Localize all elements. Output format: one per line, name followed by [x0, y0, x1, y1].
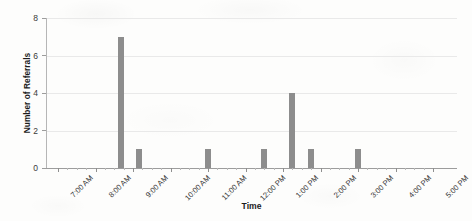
y-axis-title: Number of Referrals — [20, 18, 34, 168]
x-tick-label-text: 8:00 AM — [106, 173, 132, 199]
x-tick-minor-mark — [227, 168, 228, 170]
x-tick-label: 4:00 PM — [408, 172, 434, 198]
y-tick-mark — [42, 55, 46, 56]
bar — [261, 149, 267, 168]
x-tick-label: 8:00 AM — [108, 172, 134, 198]
x-tick-minor-mark — [292, 168, 293, 170]
x-tick-label-text: 10:00 AM — [182, 173, 211, 202]
gridline — [46, 56, 457, 57]
gridline — [46, 93, 457, 94]
x-tick-minor-mark — [311, 168, 312, 170]
bar — [205, 149, 211, 168]
gridline — [46, 18, 457, 19]
x-tick-label-text: 4:00 PM — [406, 173, 432, 199]
x-tick-label-text: 9:00 AM — [144, 173, 170, 199]
x-tick-mark — [171, 168, 172, 172]
bar — [289, 93, 295, 168]
x-tick-label-text: 11:00 AM — [220, 173, 249, 202]
x-tick-label: 5:00 PM — [445, 172, 471, 198]
x-tick-minor-mark — [264, 168, 265, 170]
y-tick-mark — [42, 93, 46, 94]
x-tick-minor-mark — [405, 168, 406, 170]
x-tick-minor-mark — [274, 168, 275, 170]
gridline — [46, 131, 457, 132]
x-axis-title: Time — [46, 201, 457, 211]
x-tick-minor-mark — [67, 168, 68, 170]
plot-area — [46, 18, 457, 168]
x-tick-minor-mark — [349, 168, 350, 170]
x-tick-minor-mark — [302, 168, 303, 170]
bar — [355, 149, 361, 168]
x-tick-minor-mark — [386, 168, 387, 170]
x-tick-label: 9:00 AM — [145, 172, 171, 198]
x-tick-minor-mark — [330, 168, 331, 170]
x-tick-minor-mark — [236, 168, 237, 170]
x-tick-mark — [208, 168, 209, 172]
x-tick-mark — [246, 168, 247, 172]
x-tick-mark — [358, 168, 359, 172]
x-tick-mark — [396, 168, 397, 172]
x-tick-label-text: 7:00 AM — [69, 173, 95, 199]
x-tick-mark — [58, 168, 59, 172]
x-tick-mark — [283, 168, 284, 172]
x-tick-minor-mark — [86, 168, 87, 170]
x-tick-minor-mark — [189, 168, 190, 170]
x-tick-mark — [433, 168, 434, 172]
bar — [308, 149, 314, 168]
x-tick-label-text: 1:00 PM — [294, 173, 320, 199]
x-tick-label-text: 5:00 PM — [444, 173, 470, 199]
x-tick-minor-mark — [339, 168, 340, 170]
x-tick-mark — [96, 168, 97, 172]
x-tick-label-text: 3:00 PM — [369, 173, 395, 199]
x-tick-minor-mark — [124, 168, 125, 170]
x-tick-minor-mark — [424, 168, 425, 170]
x-tick-label: 10:00 AM — [184, 172, 213, 201]
x-tick-minor-mark — [199, 168, 200, 170]
bar — [118, 37, 124, 168]
bar — [136, 149, 142, 168]
x-tick-minor-mark — [255, 168, 256, 170]
y-tick-mark — [42, 130, 46, 131]
x-tick-minor-mark — [414, 168, 415, 170]
x-tick-label: 2:00 PM — [333, 172, 359, 198]
x-tick-label: 7:00 AM — [70, 172, 96, 198]
y-tick-mark — [42, 18, 46, 19]
x-tick-minor-mark — [161, 168, 162, 170]
x-tick-minor-mark — [142, 168, 143, 170]
x-tick-mark — [321, 168, 322, 172]
x-tick-label: 11:00 AM — [221, 172, 250, 201]
x-tick-label: 3:00 PM — [370, 172, 396, 198]
x-tick-minor-mark — [114, 168, 115, 170]
x-tick-minor-mark — [152, 168, 153, 170]
x-tick-minor-mark — [105, 168, 106, 170]
x-tick-mark — [133, 168, 134, 172]
x-tick-label-text: 2:00 PM — [331, 173, 357, 199]
x-tick-label: 12:00 PM — [259, 172, 288, 201]
x-tick-minor-mark — [77, 168, 78, 170]
x-tick-minor-mark — [180, 168, 181, 170]
x-tick-minor-mark — [217, 168, 218, 170]
x-tick-label-text: 12:00 PM — [258, 173, 287, 202]
y-tick-mark — [42, 168, 46, 169]
x-tick-label: 1:00 PM — [295, 172, 321, 198]
x-tick-minor-mark — [367, 168, 368, 170]
y-axis-line — [46, 18, 47, 168]
x-tick-minor-mark — [377, 168, 378, 170]
